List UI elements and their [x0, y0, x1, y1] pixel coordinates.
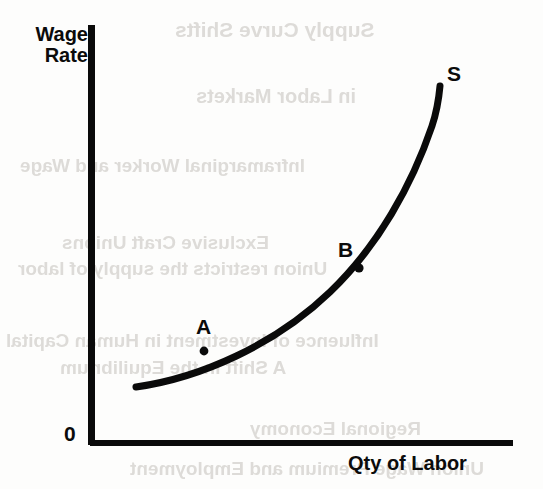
- point-b-label: B: [338, 238, 353, 262]
- point-a-label: A: [196, 315, 211, 339]
- y-axis-title-line1: Wage: [10, 24, 88, 45]
- supply-curve-label: S: [447, 62, 461, 86]
- point-a-marker: [200, 347, 209, 356]
- y-axis-title: Wage Rate: [10, 24, 88, 66]
- supply-curve-figure: Supply Curve Shifts in Labor Markets Inf…: [0, 0, 543, 489]
- supply-curve-path: [136, 86, 440, 387]
- x-axis-title: Qty of Labor: [348, 452, 467, 475]
- point-b-marker: [354, 263, 363, 272]
- supply-curve-plot: [0, 0, 543, 489]
- y-axis-title-line2: Rate: [10, 45, 88, 66]
- origin-label: 0: [64, 422, 76, 446]
